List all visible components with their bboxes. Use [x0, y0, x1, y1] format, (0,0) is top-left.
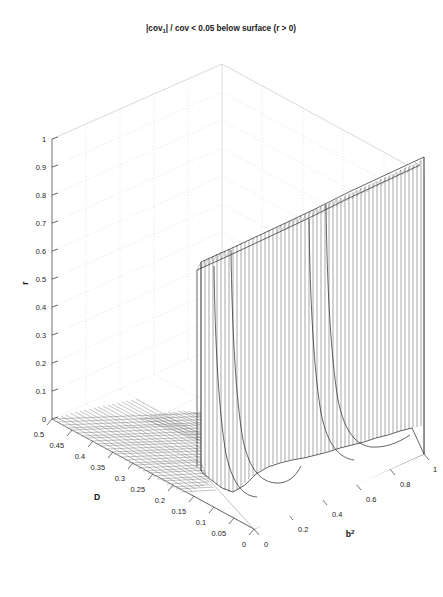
z-tick-label: 0.5	[36, 275, 46, 284]
x-tick-label: 0	[264, 540, 268, 549]
z-tick-label: 0.1	[36, 387, 46, 396]
z-tick-label: 0.6	[36, 247, 46, 256]
y-tick-label: 0.35	[91, 463, 105, 472]
z-tick-label: 0.7	[36, 219, 46, 228]
x-tick-label: 0.8	[400, 480, 410, 489]
z-tick-label: 0.4	[36, 303, 46, 312]
y-tick-label: 0.1	[196, 518, 206, 527]
title-prefix: |cov	[146, 24, 163, 33]
y-tick-label: 0.05	[212, 529, 226, 538]
plot-title: |cov1| / cov < 0.05 below surface (r > 0…	[146, 24, 296, 34]
y-tick-label: 0	[242, 540, 246, 549]
y-tick-label: 0.2	[155, 496, 165, 505]
x-tick-label: 0.2	[298, 525, 308, 534]
figure-canvas: |cov1| / cov < 0.05 below surface (r > 0…	[0, 0, 443, 597]
y-axis-label: D	[94, 492, 100, 502]
y-tick-label: 0.25	[131, 485, 145, 494]
z-tick-label: 0.8	[36, 191, 46, 200]
z-tick-label: 0.3	[36, 331, 46, 340]
x-axis-label: b2	[346, 528, 355, 540]
z-axis: 1 0.9 0.8 0.7 0.6 0.5 0.4 0.3 0.2 0.1 0 …	[20, 135, 58, 424]
z-tick-label: 0.2	[36, 359, 46, 368]
surface-body	[201, 157, 424, 529]
y-tick-label: 0.4	[75, 452, 85, 461]
x-tick-label: 1	[433, 465, 437, 474]
grid-left-wall	[52, 64, 222, 419]
x-tick-label: 0.4	[332, 510, 342, 519]
surface-plot: |cov1| / cov < 0.05 below surface (r > 0…	[0, 0, 443, 597]
z-axis-label: r	[20, 281, 30, 285]
y-tick-label: 0.45	[50, 441, 64, 450]
y-tick-label: 0.15	[172, 507, 186, 516]
z-tick-label: 1	[42, 135, 46, 144]
title-rest: | / cov < 0.05 below surface (r > 0)	[166, 24, 296, 33]
x-axis-label-superscript: 2	[351, 528, 355, 535]
x-tick-label: 0.6	[366, 495, 376, 504]
y-tick-label: 0.3	[115, 474, 125, 483]
z-tick-label: 0	[42, 415, 46, 424]
y-tick-label: 0.5	[34, 430, 44, 439]
z-axis-ticks	[52, 137, 58, 419]
z-tick-label: 0.9	[36, 163, 46, 172]
